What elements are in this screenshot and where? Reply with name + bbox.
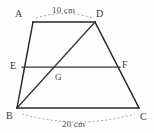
- vertex-label-G: G: [55, 72, 62, 82]
- vertex-label-E: E: [10, 61, 16, 71]
- dimension-label-bottom: 20 cm: [62, 120, 85, 129]
- dimension-label-top: 10 cm: [52, 6, 75, 15]
- vertex-label-D: D: [96, 9, 103, 19]
- geometry-diagram: A D E F G B C 10 cm 20 cm: [0, 0, 154, 133]
- vertex-label-B: B: [6, 111, 13, 121]
- vertex-label-C: C: [140, 112, 147, 122]
- segment-BD-diagonal: [17, 22, 95, 108]
- vertex-label-A: A: [15, 9, 22, 19]
- vertex-label-F: F: [122, 60, 128, 70]
- geometry-canvas: [0, 0, 154, 133]
- segment-DC-right: [95, 22, 139, 108]
- segment-AB-left: [17, 22, 33, 108]
